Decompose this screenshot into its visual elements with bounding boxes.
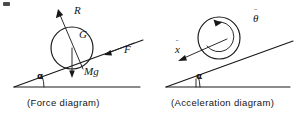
friction-arrow-head	[104, 50, 112, 56]
label-angular-acceleration: ¨ θ	[253, 13, 258, 24]
label-normal-reaction: R	[74, 5, 81, 16]
normal-reaction-arrow-head	[56, 9, 63, 18]
caption-acceleration-diagram: (Acceleration diagram)	[171, 97, 274, 108]
double-dot-accent-x: ¨	[176, 39, 179, 47]
angular-acceleration-arc	[207, 22, 234, 52]
label-friction-force: F	[124, 44, 131, 55]
label-centre-of-gravity: G	[79, 29, 87, 40]
double-dot-accent-theta: ¨	[254, 8, 257, 16]
label-incline-angle-force: α	[37, 72, 43, 81]
physics-figure: R G F Mg α α ¨ θ ¨ x (Force diagram) (Ac…	[0, 0, 304, 116]
linear-acceleration-arrow-head	[178, 55, 187, 61]
weight-arrow-head	[69, 71, 75, 79]
label-incline-angle-acceleration: α	[196, 72, 202, 81]
caption-force-diagram: (Force diagram)	[27, 97, 100, 108]
label-linear-acceleration: ¨ x	[175, 44, 180, 55]
normal-reaction-arrow-line	[60, 15, 83, 69]
label-weight: Mg	[84, 66, 99, 77]
angular-acceleration-arrow-head	[214, 20, 223, 27]
linear-acceleration-arrow-line	[184, 39, 227, 58]
